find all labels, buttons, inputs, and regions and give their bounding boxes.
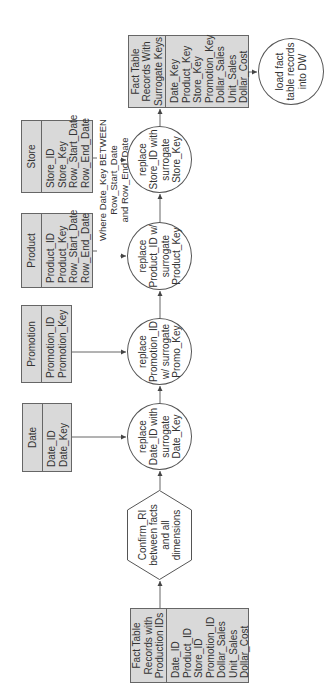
field: Date_ID xyxy=(170,613,182,678)
replace-product-key-step: replace Product_ID w/ surrogate Product_… xyxy=(127,222,192,290)
field: Store_Key xyxy=(192,40,204,103)
field: Row_Start_Date xyxy=(68,125,80,188)
field: Store_ID xyxy=(45,125,57,188)
load-into-dw-step: load fact table records into DW xyxy=(258,38,324,105)
field: Dollar_Sales xyxy=(215,40,227,103)
source-fact-table: Fact Table Records with Production IDs D… xyxy=(130,608,249,683)
dimension-table-store: Store Store_ID Store_Key Row_Start_Date … xyxy=(21,120,93,193)
dimension-table-header: Product xyxy=(22,214,42,287)
replace-store-key-step: replace Store_ID with surrogate Store_Ke… xyxy=(127,126,192,193)
dimension-table-promotion: Promotion Promotion_ID Promotion_Key xyxy=(21,305,72,383)
field: Product_ID xyxy=(45,218,57,283)
dimension-table-product: Product Product_ID Product_Key Row_Start… xyxy=(21,213,93,288)
result-fact-table-fields: Date_Key Product_Key Store_Key Promotion… xyxy=(166,36,250,107)
replace-date-key-step: replace Date_ID with surrogate Date_Key xyxy=(127,403,192,470)
field: Promotion_Key xyxy=(204,40,216,103)
field: Row_Start_Date xyxy=(68,218,80,283)
field: Product_Key xyxy=(57,218,69,283)
field: Store_Key xyxy=(57,125,69,188)
field: Date_Key xyxy=(58,408,70,467)
field: Row_End_Date xyxy=(80,218,92,283)
field: Unit_Sales xyxy=(228,613,240,678)
dimension-table-fields: Product_ID Product_Key Row_Start_Date Ro… xyxy=(42,214,91,287)
dimension-table-header: Promotion xyxy=(22,306,42,382)
field: Unit_Sales xyxy=(227,40,239,103)
dimension-table-fields: Date_ID Date_Key xyxy=(43,404,69,471)
row-date-range-annotation: Where Date_Key BETWEEN Row_Start_Date an… xyxy=(97,100,120,260)
field: Dollar_Cost xyxy=(238,40,250,103)
dimension-table-header: Store xyxy=(22,121,42,192)
confirm-ri-hexagon: Confirm_RI between facts and all dimensi… xyxy=(127,490,192,580)
field: Row_End_Date xyxy=(80,125,92,188)
dimension-table-date: Date Date_ID Date_Key xyxy=(22,403,72,472)
result-fact-table-header: Fact Table Records With Surrogate Keys xyxy=(129,36,166,107)
field: Date_Key xyxy=(169,40,181,103)
confirm-ri-label: Confirm_RI between facts and all dimensi… xyxy=(137,504,183,566)
source-fact-table-fields: Date_ID Product_ID Store_ID Promotion_ID… xyxy=(167,609,251,682)
field: Dollar_Cost xyxy=(239,613,251,678)
dimension-table-header: Date xyxy=(23,404,43,471)
field: Promotion_Key xyxy=(57,310,69,378)
dimension-table-fields: Promotion_ID Promotion_Key xyxy=(42,306,68,382)
field: Dollar_Sales xyxy=(216,613,228,678)
field: Store_ID xyxy=(193,613,205,678)
result-fact-table: Fact Table Records With Surrogate Keys D… xyxy=(128,35,249,108)
field: Product_Key xyxy=(181,40,193,103)
replace-promo-key-step: replace Promotion_ID w/ surrogate Promo_… xyxy=(127,318,192,385)
dimension-table-fields: Store_ID Store_Key Row_Start_Date Row_En… xyxy=(42,121,91,192)
field: Product_ID xyxy=(182,613,194,678)
field: Date_ID xyxy=(46,408,58,467)
source-fact-table-header: Fact Table Records with Production IDs xyxy=(131,609,167,682)
field: Promotion_ID xyxy=(205,613,217,678)
field: Promotion_ID xyxy=(45,310,57,378)
